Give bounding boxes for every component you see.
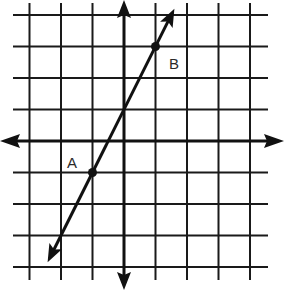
point-label-a: A bbox=[67, 155, 77, 170]
point-b-dot bbox=[151, 42, 160, 51]
x-axis bbox=[0, 134, 284, 148]
graph-svg bbox=[0, 0, 289, 290]
point-label-b: B bbox=[169, 56, 179, 71]
line-segment bbox=[52, 17, 171, 255]
x-axis-left-arrow-icon bbox=[0, 134, 20, 148]
x-axis-right-arrow-icon bbox=[264, 134, 284, 148]
point-a-dot bbox=[88, 168, 97, 177]
y-axis bbox=[117, 0, 131, 290]
coordinate-plane: B A bbox=[0, 0, 289, 290]
